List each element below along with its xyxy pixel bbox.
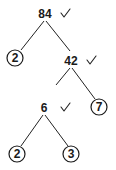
node-label: 2 [12, 51, 19, 65]
node-2-prime-bottom: 2 [9, 146, 25, 162]
edge-42-6 [56, 68, 70, 85]
node-6: 6 [41, 101, 70, 115]
edge-6-2 [21, 115, 43, 146]
factor-tree-diagram: 84 2 42 6 7 2 3 [0, 0, 116, 170]
checkmark-icon [87, 56, 96, 64]
node-3-prime: 3 [63, 146, 79, 162]
node-label: 3 [68, 147, 75, 161]
node-7-prime: 7 [91, 99, 107, 115]
edge-42-7 [72, 68, 95, 99]
node-label: 6 [41, 101, 48, 115]
node-84: 84 [38, 7, 70, 21]
node-42: 42 [64, 54, 96, 68]
checkmark-icon [61, 9, 70, 17]
edge-84-42 [46, 21, 70, 51]
node-label: 7 [96, 100, 103, 114]
node-2-prime: 2 [7, 50, 23, 66]
node-label: 42 [64, 54, 78, 68]
node-label: 2 [14, 147, 21, 161]
edge-6-3 [45, 115, 68, 146]
node-label: 84 [38, 7, 52, 21]
edge-84-2 [21, 21, 44, 50]
checkmark-icon [61, 103, 70, 111]
